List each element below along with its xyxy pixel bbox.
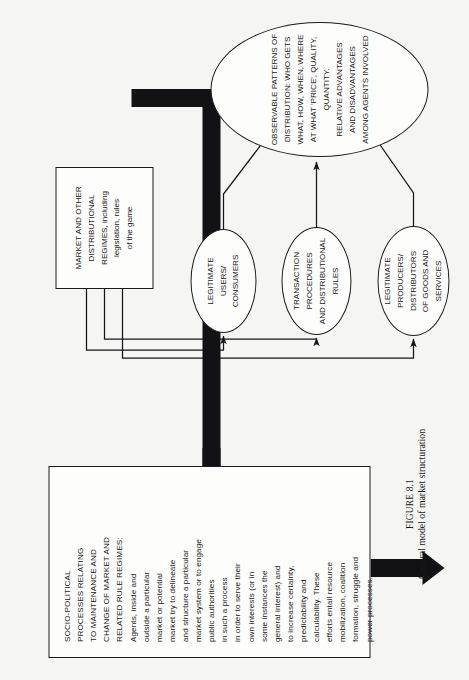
figure-caption: FIGURE 8.1 General model of market struc… [404, 344, 426, 664]
socio-political-body: Agents, inside and outside a particular … [126, 537, 375, 642]
legitimate-users-consumers-ellipse: LEGITIMATE USERS/ CONSUMERS [190, 229, 256, 333]
edge-producers-to-observable [372, 134, 413, 226]
socio-political-processes-box: SOCIO-POLITICAL PROCESSES RELATING TO MA… [48, 466, 370, 658]
transaction-procedures-ellipse: TRANSACTION PROCEDURES AND DISTRIBUTIONA… [281, 227, 351, 335]
figure-number-label: FIGURE 8.1 [404, 344, 414, 664]
observable-patterns-of-distribution-ellipse: OBSERVABLE PATTERNS OF DISTRIBUTION: WHO… [210, 22, 428, 157]
legitimate-users-text: LEGITIMATE USERS/ CONSUMERS [204, 251, 243, 312]
edge-market-to-producers [122, 167, 413, 358]
transaction-procedures-text: TRANSACTION PROCEDURES AND DISTRIBUTIONA… [290, 234, 342, 328]
observable-patterns-text: OBSERVABLE PATTERNS OF DISTRIBUTION: WHO… [267, 29, 372, 150]
socio-political-heading: SOCIO-POLITICAL PROCESSES RELATING TO MA… [60, 537, 126, 642]
socio-political-text: SOCIO-POLITICAL PROCESSES RELATING TO MA… [60, 533, 375, 646]
legitimate-producers-text: LEGITIMATE PRODUCERS/ DISTRIBUTORS OF GO… [381, 246, 446, 317]
figure-caption-text: General model of market structuration [415, 344, 426, 664]
market-regimes-text: MARKET AND OTHER DISTRIBUTIONAL REGIMES,… [72, 182, 136, 273]
legitimate-producers-ellipse: LEGITIMATE PRODUCERS/ DISTRIBUTORS OF GO… [377, 226, 449, 336]
market-and-other-distributional-regimes-box: MARKET AND OTHER DISTRIBUTIONAL REGIMES,… [55, 167, 153, 289]
figure-canvas: SOCIO-POLITICAL PROCESSES RELATING TO MA… [0, 0, 469, 680]
edge-users-to-observable [223, 135, 268, 229]
